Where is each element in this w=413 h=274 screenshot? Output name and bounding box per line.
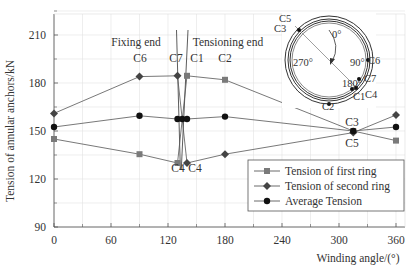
circle-marker xyxy=(222,113,228,119)
x-tick-label: 0 xyxy=(51,234,57,246)
inset-label-c6: C6 xyxy=(368,55,380,66)
anchor-dot xyxy=(297,28,301,32)
x-tick-label: 120 xyxy=(159,234,177,246)
diamond-marker xyxy=(50,109,58,117)
circle-marker xyxy=(136,113,142,119)
circle-marker xyxy=(393,124,399,130)
point-label-c4: C4 xyxy=(188,162,202,174)
diamond-marker xyxy=(136,73,144,81)
square-marker xyxy=(264,168,270,174)
end-marker-lines xyxy=(177,30,189,169)
inset-label-c4: C4 xyxy=(365,89,378,100)
y-tick-label: 120 xyxy=(29,173,47,185)
x-tick-label: 180 xyxy=(216,234,234,246)
angle-label: 90° xyxy=(350,57,365,68)
ring-inset-diagram: 0°90°180°270°C5C3C6C7C1C4C2 xyxy=(274,12,380,112)
square-marker xyxy=(184,73,190,79)
legend-label: Tension of first ring xyxy=(285,165,377,178)
inset-label-c7: C7 xyxy=(364,73,376,84)
point-label-c6: C6 xyxy=(133,52,147,64)
point-label-c4: C4 xyxy=(171,162,185,174)
point-label-c3: C3 xyxy=(345,116,359,128)
legend-label: Tension of second ring xyxy=(285,180,390,193)
diamond-marker xyxy=(221,150,229,158)
point-label-c1: C1 xyxy=(190,52,204,64)
angle-label: 0° xyxy=(332,29,341,40)
anchor-dot xyxy=(357,77,361,81)
inset-label-c1: C1 xyxy=(353,91,365,102)
inset-label-c3: C3 xyxy=(274,23,286,34)
y-tick-label: 90 xyxy=(35,221,47,233)
y-axis-label: Tension of annular anchors/kN xyxy=(4,59,16,202)
x-tick-label: 240 xyxy=(273,234,291,246)
point-label-c7: C7 xyxy=(169,52,183,64)
y-tick-label: 150 xyxy=(29,125,47,137)
tensioning-end-label: Tensioning end xyxy=(193,36,264,49)
diamond-marker xyxy=(174,72,182,80)
tension-chart: 90120150180210060120180240300360 C6C7C1C… xyxy=(0,0,413,274)
fixing-end-label: Fixing end xyxy=(111,36,161,49)
square-marker xyxy=(137,151,143,157)
y-tick-label: 210 xyxy=(29,29,47,41)
square-marker xyxy=(222,77,228,83)
legend: Tension of first ringTension of second r… xyxy=(248,160,404,211)
x-tick-label: 60 xyxy=(105,234,117,246)
x-tick-label: 300 xyxy=(330,234,348,246)
legend-label: Average Tension xyxy=(285,195,362,208)
circle-marker xyxy=(350,128,356,134)
angle-label: 270° xyxy=(293,57,313,68)
circle-marker xyxy=(264,198,270,204)
point-label-c2: C2 xyxy=(218,52,232,64)
x-tick-label: 360 xyxy=(387,234,405,246)
x-axis-label: Winding angle/(°) xyxy=(316,252,399,265)
square-marker xyxy=(393,138,399,144)
square-marker xyxy=(51,136,57,142)
y-tick-label: 180 xyxy=(29,77,47,89)
point-label-c5: C5 xyxy=(345,137,359,149)
circle-marker xyxy=(184,116,190,122)
inset-label-c2: C2 xyxy=(322,101,334,112)
circle-marker xyxy=(51,124,57,130)
anchor-dot xyxy=(354,86,358,90)
diamond-marker xyxy=(392,111,400,119)
